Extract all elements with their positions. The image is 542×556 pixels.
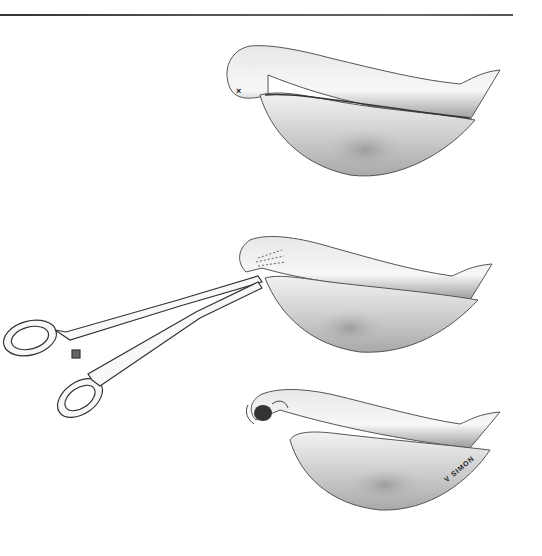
forceps <box>0 276 262 425</box>
organ-panel-1 <box>227 46 500 176</box>
organ-panel-2 <box>240 237 492 353</box>
opening <box>254 405 272 421</box>
surgical-illustration <box>0 0 542 556</box>
marker-x: × <box>236 86 241 96</box>
organ-panel-3 <box>246 390 500 511</box>
